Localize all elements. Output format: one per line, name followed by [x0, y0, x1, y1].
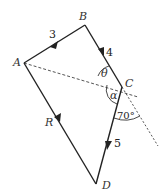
magnitude-label-CD: 5 [114, 137, 121, 150]
vector-AD-R [24, 63, 96, 184]
point-label-B: B [78, 10, 87, 23]
angle-label-theta: θ [101, 67, 108, 80]
magnitude-label-AB: 3 [49, 28, 56, 41]
vector-diagram: A B C D 3 4 5 R θ α 70° [0, 0, 163, 194]
point-label-D: D [101, 179, 111, 192]
angle-label-70: 70° [117, 110, 135, 121]
arrowhead-AB [50, 41, 58, 49]
angle-label-alpha: α [110, 89, 118, 102]
magnitude-label-BC: 4 [106, 46, 113, 59]
vector-CD [96, 87, 122, 184]
magnitude-label-R: R [44, 116, 53, 129]
point-label-A: A [12, 56, 21, 69]
point-label-C: C [125, 77, 134, 90]
